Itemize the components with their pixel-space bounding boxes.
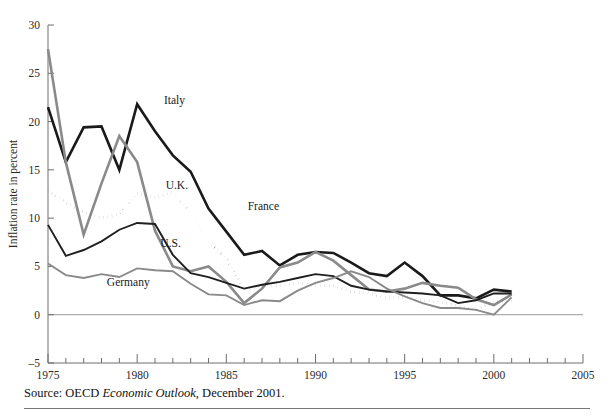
y-axis-tick-label: 25 xyxy=(29,67,41,79)
x-axis-tick-label: 2000 xyxy=(482,369,505,380)
source-rest: , December 2001. xyxy=(196,386,285,400)
y-axis-tick-label: 15 xyxy=(29,164,41,176)
source-org: OECD xyxy=(65,386,99,400)
series-label-italy: Italy xyxy=(164,94,185,107)
y-axis-tick-label: 0 xyxy=(34,309,40,321)
y-axis-tick-label: 5 xyxy=(34,260,40,272)
series-line-germany xyxy=(48,264,512,315)
source-note: Source: OECD Economic Outlook, December … xyxy=(24,386,285,401)
x-axis-tick-label: 1985 xyxy=(215,369,238,380)
x-axis-tick-label: 1975 xyxy=(37,369,60,380)
y-axis-tick-label: 30 xyxy=(29,19,41,31)
x-axis-tick-label: 2005 xyxy=(572,369,595,380)
cut-off-header-text xyxy=(110,0,530,6)
source-prefix: Source: xyxy=(24,386,62,400)
x-axis-tick-label: 1980 xyxy=(126,369,149,380)
series-label-uk: U.K. xyxy=(166,179,188,191)
y-axis-tick-label: 10 xyxy=(29,212,41,224)
figure-bottom-rule xyxy=(24,408,590,409)
y-axis-tick-label: 20 xyxy=(29,116,41,128)
series-label-us: U.S. xyxy=(160,237,181,249)
y-axis-title: Inflation rate in percent xyxy=(7,139,20,248)
series-label-germany: Germany xyxy=(107,276,150,289)
series-line-france xyxy=(48,191,512,310)
series-label-france: France xyxy=(248,200,279,212)
y-axis-tick-label: –5 xyxy=(28,357,41,369)
figure-container: 302520151050–519751980198519901995200020… xyxy=(0,0,615,418)
inflation-line-chart: 302520151050–519751980198519901995200020… xyxy=(0,0,615,380)
x-axis-tick-label: 1995 xyxy=(393,369,416,380)
series-line-us xyxy=(48,223,512,303)
x-axis-tick-label: 1990 xyxy=(304,369,327,380)
source-publication-title: Economic Outlook xyxy=(102,386,195,400)
series-line-uk xyxy=(48,49,512,305)
